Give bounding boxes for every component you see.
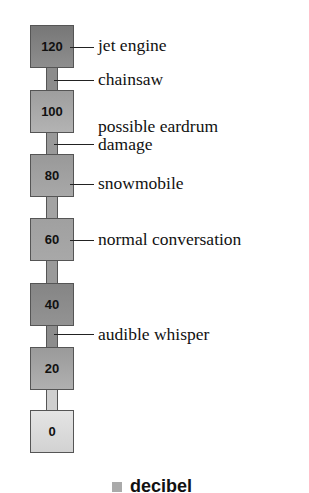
level-box-100: 100: [30, 90, 74, 133]
tick-whisper: [54, 334, 94, 335]
label-audible-whisper: audible whisper: [98, 325, 209, 343]
level-box-60: 60: [30, 218, 74, 261]
label-eardrum-line2: damage: [98, 135, 152, 153]
tick-conversation: [70, 240, 94, 241]
connector-40-20: [46, 326, 58, 348]
tick-eardrum: [54, 144, 94, 145]
legend-swatch: [112, 482, 122, 492]
label-chainsaw: chainsaw: [98, 70, 163, 88]
connector-60-40: [46, 261, 58, 284]
tick-chainsaw: [54, 80, 94, 81]
label-snowmobile: snowmobile: [98, 174, 184, 192]
level-box-120: 120: [30, 25, 74, 68]
tick-snowmobile: [70, 184, 94, 185]
level-box-40: 40: [30, 283, 74, 326]
connector-80-60: [46, 197, 58, 219]
legend: decibel: [112, 476, 192, 493]
level-box-80: 80: [30, 154, 74, 197]
level-box-0: 0: [30, 410, 74, 453]
label-eardrum-line1: possible eardrum: [98, 117, 218, 135]
level-box-20: 20: [30, 347, 74, 390]
label-jet-engine: jet engine: [98, 36, 167, 54]
connector-20-0: [46, 389, 58, 411]
legend-label: decibel: [130, 476, 192, 493]
label-normal-conversation: normal conversation: [98, 230, 241, 248]
tick-jet-engine: [70, 47, 94, 48]
